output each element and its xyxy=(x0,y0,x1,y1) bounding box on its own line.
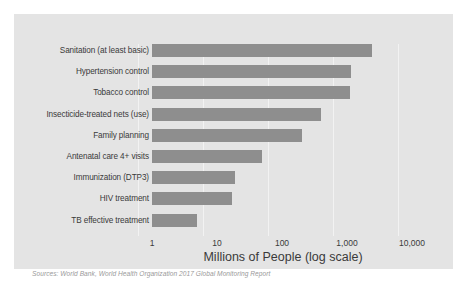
bar-row xyxy=(152,65,429,78)
bar[interactable] xyxy=(152,65,351,78)
category-label: Immunization (DTP3) xyxy=(21,171,149,184)
bar-row xyxy=(152,214,429,227)
category-label: Family planning xyxy=(21,129,149,142)
bar[interactable] xyxy=(152,108,321,121)
category-label: TB effective treatment xyxy=(21,214,149,227)
x-tick-1000: 1,000 xyxy=(336,238,357,248)
source-note: Sources: World Bank, World Health Organi… xyxy=(32,270,270,277)
bar[interactable] xyxy=(152,44,372,57)
x-tick-1: 1 xyxy=(150,238,155,248)
bar-row xyxy=(152,150,429,163)
bar[interactable] xyxy=(152,214,197,227)
bar-row xyxy=(152,129,429,142)
chart-panel: Sanitation (at least basic)Hypertension … xyxy=(14,14,453,269)
plot-area xyxy=(152,44,429,236)
x-tick-100: 100 xyxy=(275,238,289,248)
category-label: Hypertension control xyxy=(21,65,149,78)
bar-row xyxy=(152,108,429,121)
bar[interactable] xyxy=(152,192,232,205)
bar[interactable] xyxy=(152,86,350,99)
chart-figure: Sanitation (at least basic)Hypertension … xyxy=(0,0,467,283)
x-tick-10000: 10,000 xyxy=(399,238,425,248)
category-label: Insecticide-treated nets (use) xyxy=(21,108,149,121)
bar-row xyxy=(152,192,429,205)
category-label: Sanitation (at least basic) xyxy=(21,44,149,57)
bar[interactable] xyxy=(152,171,235,184)
category-axis-labels: Sanitation (at least basic)Hypertension … xyxy=(18,44,149,236)
category-label: HIV treatment xyxy=(21,192,149,205)
bar[interactable] xyxy=(152,150,262,163)
category-label: Tobacco control xyxy=(21,86,149,99)
bar-row xyxy=(152,171,429,184)
bar-row xyxy=(152,44,429,57)
bar[interactable] xyxy=(152,129,302,142)
x-axis-title: Millions of People (log scale) xyxy=(152,250,414,264)
x-tick-10: 10 xyxy=(212,238,221,248)
bar-row xyxy=(152,86,429,99)
category-label: Antenatal care 4+ visits xyxy=(21,150,149,163)
